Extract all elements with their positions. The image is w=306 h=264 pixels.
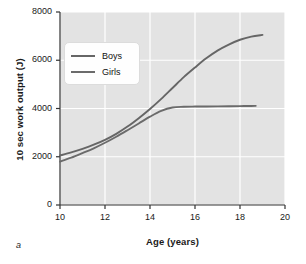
line-chart-canvas <box>0 0 306 264</box>
y-tick-label: 6000 <box>18 54 52 64</box>
legend-label: Boys <box>102 52 122 61</box>
x-tick-label: 14 <box>137 212 163 222</box>
legend-item-boys[interactable]: Boys <box>65 48 139 64</box>
x-tick-label: 18 <box>227 212 253 222</box>
legend-line-swatch-icon <box>71 55 95 57</box>
legend-label: Girls <box>102 68 121 77</box>
x-tick-label: 16 <box>182 212 208 222</box>
x-axis-title: Age (years) <box>60 236 285 247</box>
y-tick-label: 0 <box>18 199 52 209</box>
y-tick-label: 2000 <box>18 151 52 161</box>
x-tick-label: 10 <box>47 212 73 222</box>
legend-line-swatch-icon <box>71 71 95 73</box>
chart-figure: 10 sec work output (J) Age (years) 02000… <box>0 0 306 264</box>
x-tick-label: 20 <box>272 212 298 222</box>
x-tick-label: 12 <box>92 212 118 222</box>
chart-legend: BoysGirls <box>64 42 140 85</box>
panel-label: a <box>16 240 21 250</box>
y-tick-label: 8000 <box>18 6 52 16</box>
legend-item-girls[interactable]: Girls <box>65 64 139 80</box>
y-tick-label: 4000 <box>18 103 52 113</box>
